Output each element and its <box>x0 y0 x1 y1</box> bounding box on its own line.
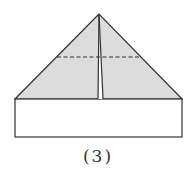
paper-base-rectangle <box>15 99 182 137</box>
figure-caption: (3) <box>0 146 192 166</box>
